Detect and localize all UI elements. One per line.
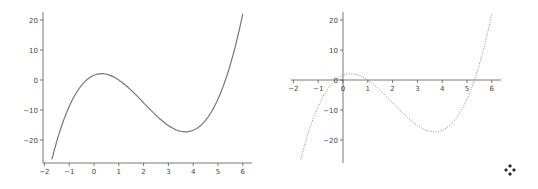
right-y-tick-label: −20 <box>323 137 338 145</box>
right-x-tick-label: 6 <box>490 85 495 93</box>
left-y-tick-label: −10 <box>23 107 38 115</box>
left-y-tick-label: −20 <box>23 137 38 145</box>
right-cubic-chart: −2−10123456 20100−10−20 <box>270 0 538 189</box>
right-x-tick-label: 4 <box>440 85 445 93</box>
left-y-tick-label: 0 <box>34 77 38 85</box>
left-x-tick-label: 3 <box>166 168 170 176</box>
left-y-tick-label: 20 <box>29 17 38 25</box>
right-x-tick-label: 2 <box>390 85 394 93</box>
right-x-tick-label: 0 <box>341 85 345 93</box>
left-x-tick-label: 2 <box>141 168 145 176</box>
right-x-tick-label: 1 <box>366 85 370 93</box>
right-y-tick-label: −10 <box>323 107 338 115</box>
right-x-tick-label: 5 <box>465 85 469 93</box>
left-x-tick-label: −2 <box>39 168 49 176</box>
left-x-tick-label: 0 <box>92 168 96 176</box>
left-cubic-chart: −2−10123456 20100−10−20 <box>0 0 270 189</box>
left-y-tick-label: 10 <box>29 47 38 55</box>
left-x-tick-label: 6 <box>241 168 246 176</box>
right-x-tick-label: −1 <box>313 85 323 93</box>
left-x-tick-label: 5 <box>216 168 220 176</box>
move-arrows-icon[interactable] <box>504 164 516 176</box>
left-x-tick-label: 1 <box>117 168 121 176</box>
right-y-tick-label: 20 <box>329 17 338 25</box>
left-x-tick-label: 4 <box>191 168 196 176</box>
right-x-tick-label: −2 <box>288 85 298 93</box>
right-x-tick-label: 3 <box>415 85 419 93</box>
left-curve-line <box>52 14 243 160</box>
left-x-tick-label: −1 <box>64 168 74 176</box>
right-y-tick-label: 10 <box>329 47 338 55</box>
